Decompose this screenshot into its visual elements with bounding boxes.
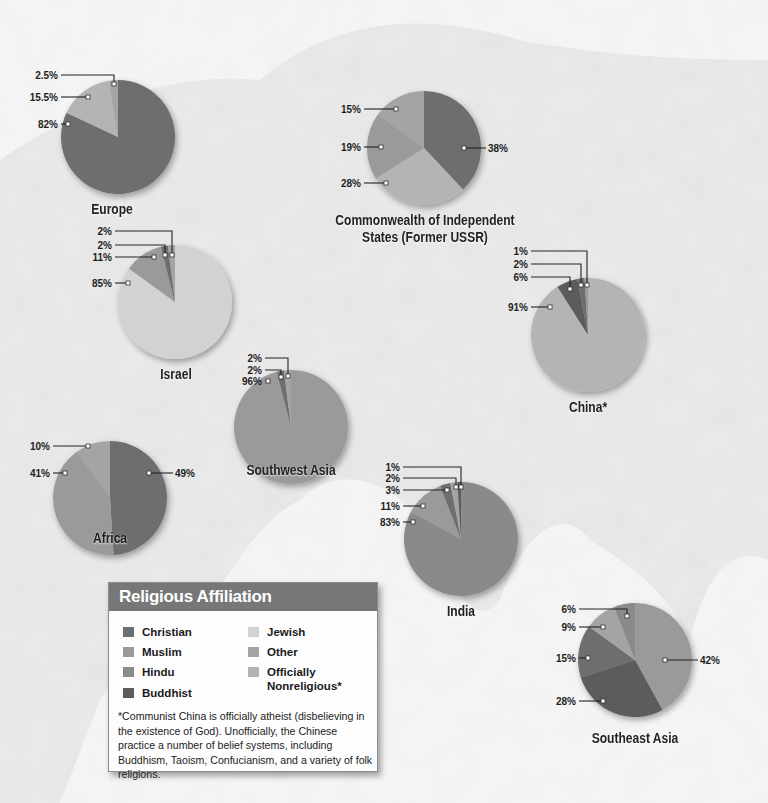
swatch-jewish-icon bbox=[248, 627, 259, 637]
percent-label: 42% bbox=[700, 655, 720, 666]
legend-item-other: Other bbox=[248, 645, 298, 659]
legend-item-nonreligious: Officially Nonreligious* bbox=[248, 665, 358, 693]
pie-israel bbox=[118, 245, 232, 359]
pie-title-africa: Africa bbox=[0, 530, 239, 547]
percent-label: 2% bbox=[98, 240, 113, 251]
pie-slice-officially-nonreligious bbox=[531, 278, 645, 392]
pie-china bbox=[531, 278, 645, 392]
swatch-other-icon bbox=[248, 647, 259, 657]
swatch-nonreligious-icon bbox=[248, 667, 259, 677]
legend-item-hindu: Hindu bbox=[123, 665, 175, 679]
swatch-muslim-icon bbox=[123, 647, 134, 657]
percent-label: 1% bbox=[514, 246, 529, 257]
percent-label: 9% bbox=[562, 622, 577, 633]
pie-title-southwest-asia: Southwest Asia bbox=[162, 462, 420, 479]
percent-label: 2.5% bbox=[35, 70, 58, 81]
percent-label: 15% bbox=[341, 104, 361, 115]
swatch-hindu-icon bbox=[123, 667, 134, 677]
pie-title-europe: Europe bbox=[0, 201, 241, 218]
pie-title-commonwealth-of-independent-states-former-ussr: Commonwealth of IndependentStates (Forme… bbox=[296, 212, 554, 246]
percent-label: 41% bbox=[30, 468, 50, 479]
percent-label: 91% bbox=[508, 302, 528, 313]
legend-footnote: *Communist China is officially atheist (… bbox=[118, 709, 374, 782]
percent-label: 2% bbox=[248, 353, 263, 364]
pie-title-southeast-asia: Southeast Asia bbox=[506, 730, 764, 747]
legend-item-jewish: Jewish bbox=[248, 625, 305, 639]
percent-label: 15% bbox=[556, 653, 576, 664]
percent-label: 2% bbox=[514, 259, 529, 270]
legend-item-christian: Christian bbox=[123, 625, 192, 639]
percent-label: 85% bbox=[92, 278, 112, 289]
percent-label: 19% bbox=[341, 142, 361, 153]
pie-title-israel: Israel bbox=[47, 366, 305, 383]
legend-items: Christian Muslim Hindu Buddhist Jewish O… bbox=[109, 611, 377, 701]
percent-label: 83% bbox=[380, 517, 400, 528]
percent-label: 38% bbox=[488, 143, 508, 154]
percent-label: 3% bbox=[386, 485, 401, 496]
legend-item-muslim: Muslim bbox=[123, 645, 182, 659]
percent-label: 11% bbox=[93, 252, 113, 263]
percent-label: 82% bbox=[38, 119, 58, 130]
percent-label: 11% bbox=[381, 501, 401, 512]
swatch-buddhist-icon bbox=[123, 688, 134, 698]
percent-label: 10% bbox=[30, 441, 50, 452]
legend-title: Religious Affiliation bbox=[109, 583, 377, 611]
legend-box: Religious Affiliation Christian Muslim H… bbox=[108, 582, 378, 772]
percent-label: 6% bbox=[514, 272, 529, 283]
percent-label: 15.5% bbox=[30, 92, 58, 103]
swatch-christian-icon bbox=[123, 627, 134, 637]
pie-india bbox=[404, 482, 518, 596]
percent-label: 28% bbox=[341, 178, 361, 189]
legend-item-buddhist: Buddhist bbox=[123, 686, 192, 700]
percent-label: 2% bbox=[98, 226, 113, 237]
pie-title-china: China* bbox=[459, 399, 717, 416]
percent-label: 28% bbox=[556, 696, 576, 707]
